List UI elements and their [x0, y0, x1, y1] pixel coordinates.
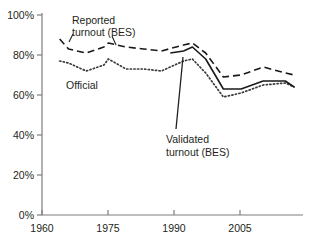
- x-tick-label-2005: 2005: [228, 222, 252, 234]
- y-tick-label-20: 20%: [13, 169, 34, 181]
- y-tick-label-40: 40%: [13, 129, 34, 141]
- x-tick-label-1975: 1975: [96, 222, 120, 234]
- y-tick-label-60: 60%: [13, 89, 34, 101]
- chart-container: 100% 80% 60% 40% 20% 0% 1960 1975 1990 2…: [0, 0, 312, 244]
- series-line-1: [60, 59, 294, 97]
- reported-annotation-line1: Reported: [72, 14, 115, 26]
- validated-leader-line: [176, 57, 183, 129]
- y-tick-label-100: 100%: [7, 9, 34, 21]
- y-tick-label-0: 0%: [19, 209, 34, 221]
- validated-annotation-line2: turnout (BES): [166, 146, 230, 158]
- x-axis-ticks: [42, 210, 240, 215]
- turnout-line-chart: 100% 80% 60% 40% 20% 0% 1960 1975 1990 2…: [0, 0, 312, 244]
- series-line-0: [60, 39, 294, 77]
- y-axis-ticks: [37, 15, 42, 215]
- reported-annotation-line2: turnout (BES): [72, 26, 136, 38]
- y-tick-label-80: 80%: [13, 49, 34, 61]
- x-tick-label-1960: 1960: [30, 222, 54, 234]
- x-tick-label-1990: 1990: [162, 222, 186, 234]
- validated-annotation-line1: Validated: [166, 133, 209, 145]
- official-annotation-line1: Official: [66, 79, 98, 91]
- series-line-2: [170, 47, 294, 89]
